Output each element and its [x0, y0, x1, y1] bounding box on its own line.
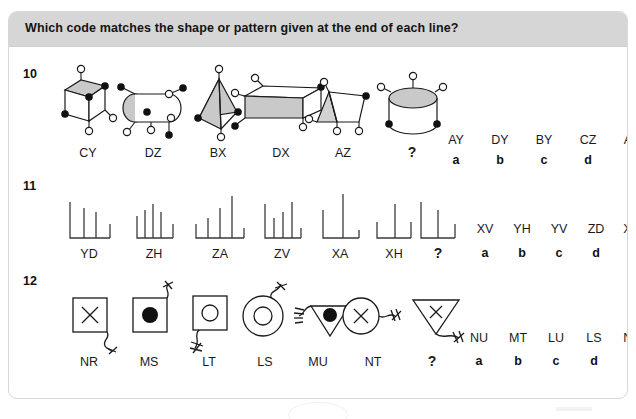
option-code-10-b[interactable]: DY	[491, 133, 508, 147]
question-number-12: 12	[23, 274, 37, 288]
stimulus-label-ms: MS	[140, 355, 159, 369]
question-number-11: 11	[23, 179, 36, 193]
option-letter-11-c[interactable]: c	[556, 246, 563, 260]
option-code-10-d[interactable]: CZ	[580, 133, 597, 147]
stimulus-cylinder-shape[interactable]	[377, 72, 449, 142]
option-letter-10-b[interactable]: b	[496, 153, 504, 167]
stimulus-label-ls: LS	[257, 355, 272, 369]
stimulus-label-az: AZ	[335, 146, 351, 160]
option-code-12-d[interactable]: LS	[586, 331, 601, 345]
stimulus-label-za: ZA	[212, 247, 228, 261]
stimulus-bar-pattern-za[interactable]	[192, 190, 248, 242]
stimulus-label-xa: XA	[332, 247, 349, 261]
stimulus-label-dx: DX	[272, 146, 289, 160]
stimulus-label-mu: MU	[308, 355, 327, 369]
stimulus-label-cy: CY	[79, 146, 96, 160]
option-code-10-c[interactable]: BY	[536, 133, 553, 147]
question-row-11: 11 YD ZH	[9, 172, 627, 267]
stimulus-label-zh: ZH	[146, 247, 163, 261]
option-code-12-c[interactable]: LU	[548, 331, 564, 345]
stimulus-bar-pattern-zh[interactable]	[133, 194, 177, 242]
option-letter-10-c[interactable]: c	[541, 153, 548, 167]
option-letter-11-d[interactable]: d	[592, 246, 600, 260]
page-title: Which code matches the shape or pattern …	[25, 21, 458, 35]
stimulus-label-bx: BX	[210, 146, 227, 160]
stimulus-label-dz: DZ	[145, 146, 162, 160]
stimulus-label-zv: ZV	[274, 247, 290, 261]
option-letter-12-b[interactable]: b	[514, 354, 522, 368]
question-row-12: 12 NR	[9, 270, 627, 380]
page-artifact-arc	[288, 402, 348, 419]
question-number-10: 10	[23, 67, 37, 81]
stimulus-label-q11: ?	[434, 245, 443, 261]
option-code-11-b[interactable]: YH	[513, 222, 530, 236]
stimulus-bar-pattern-xa[interactable]	[319, 188, 363, 242]
stimulus-label-nr: NR	[80, 355, 98, 369]
stimulus-label-nt: NT	[365, 355, 382, 369]
stimulus-bar-pattern-q11[interactable]	[417, 192, 461, 242]
stimulus-triangle-cross-shape[interactable]	[403, 290, 479, 354]
option-code-11-c[interactable]: YV	[551, 222, 568, 236]
option-code-12-a[interactable]: NU	[470, 331, 488, 345]
stimulus-label-q12: ?	[428, 353, 437, 369]
page-root: Which code matches the shape or pattern …	[0, 0, 636, 419]
option-letter-11-b[interactable]: b	[518, 246, 526, 260]
option-code-10-a[interactable]: AY	[448, 133, 464, 147]
stimulus-circle-in-circle-shape[interactable]	[237, 274, 299, 346]
option-code-11-e[interactable]: XD	[623, 222, 628, 236]
stimulus-square-open-circle-shape[interactable]	[177, 290, 237, 360]
option-code-11-d[interactable]: ZD	[588, 222, 605, 236]
panel-header: Which code matches the shape or pattern …	[9, 12, 627, 47]
option-code-10-e[interactable]: AX	[624, 133, 628, 147]
stimulus-wedge-shape[interactable]	[303, 78, 383, 140]
option-code-12-b[interactable]: MT	[509, 331, 527, 345]
option-code-12-e[interactable]: NS	[623, 331, 628, 345]
stimulus-circle-cross-shape[interactable]	[339, 294, 407, 350]
stimulus-label-lt: LT	[202, 355, 216, 369]
stimulus-bar-pattern-zv[interactable]	[261, 190, 305, 242]
option-letter-12-c[interactable]: c	[553, 354, 560, 368]
stimulus-bar-pattern-yd[interactable]	[66, 194, 114, 242]
option-letter-10-a[interactable]: a	[453, 153, 460, 167]
stimulus-label-yd: YD	[80, 247, 97, 261]
stimulus-square-cross-shape[interactable]	[67, 292, 123, 358]
option-letter-12-d[interactable]: d	[590, 354, 598, 368]
option-letter-12-a[interactable]: a	[476, 354, 483, 368]
question-panel: Which code matches the shape or pattern …	[8, 11, 628, 399]
page-artifact-smudge	[556, 407, 592, 411]
stimulus-label-xh: XH	[385, 247, 402, 261]
stimulus-bar-pattern-xh[interactable]	[373, 196, 417, 242]
option-letter-10-d[interactable]: d	[584, 153, 592, 167]
option-letter-11-a[interactable]: a	[482, 246, 489, 260]
option-code-11-a[interactable]: XV	[477, 222, 494, 236]
question-row-10: 10 CY	[9, 62, 627, 167]
stimulus-label-q10: ?	[408, 144, 417, 160]
